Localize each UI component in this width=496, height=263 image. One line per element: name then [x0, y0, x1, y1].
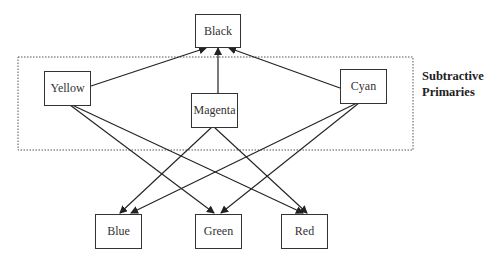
node-black-label: Black	[204, 24, 232, 39]
edge-yellow-black	[91, 48, 206, 86]
node-green: Green	[195, 214, 242, 249]
node-cyan: Cyan	[340, 69, 387, 104]
node-yellow-label: Yellow	[50, 81, 84, 96]
group-label-line1: Subtractive	[422, 68, 484, 84]
group-label-subtractive-primaries: Subtractive Primaries	[422, 68, 484, 100]
node-magenta-label: Magenta	[194, 103, 236, 118]
edge-cyan-black	[229, 48, 340, 88]
node-blue-label: Blue	[107, 224, 130, 239]
node-red-label: Red	[295, 224, 314, 239]
edge-cyan-blue	[131, 103, 357, 213]
edge-cyan-green	[221, 103, 359, 213]
group-label-line2: Primaries	[422, 84, 484, 100]
diagram-canvas	[0, 0, 496, 263]
node-green-label: Green	[204, 224, 233, 239]
node-yellow: Yellow	[44, 71, 91, 106]
edge-yellow-red	[72, 105, 303, 213]
edge-magenta-red	[214, 127, 307, 213]
node-cyan-label: Cyan	[351, 79, 376, 94]
edge-magenta-blue	[120, 127, 212, 213]
node-blue: Blue	[95, 214, 142, 249]
node-magenta: Magenta	[191, 93, 238, 128]
node-black: Black	[195, 14, 241, 48]
node-red: Red	[281, 214, 328, 249]
